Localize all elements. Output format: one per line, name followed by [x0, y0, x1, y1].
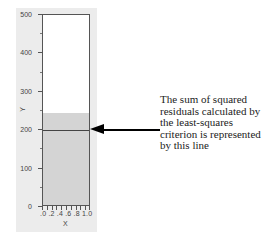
arrow-line	[100, 129, 160, 131]
x-tick-labels: .0 .2 .4 .6 .8 1.0	[40, 210, 92, 217]
shaded-region	[43, 113, 89, 205]
plot-area	[42, 14, 90, 206]
minor-tick	[40, 33, 42, 34]
x-axis-label: X	[63, 220, 68, 227]
least-squares-line	[43, 130, 89, 131]
minor-tick	[40, 187, 42, 188]
y-axis-label: Y	[19, 107, 26, 112]
minor-tick	[40, 110, 42, 111]
minor-tick	[40, 148, 42, 149]
annotation-text: The sum of squared residuals calculated …	[160, 94, 266, 152]
minor-tick	[40, 72, 42, 73]
